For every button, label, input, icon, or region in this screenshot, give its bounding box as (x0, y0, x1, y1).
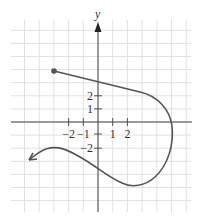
curve-path (29, 71, 172, 186)
x-tick-label: −2 (62, 127, 75, 141)
y-tick-label: −2 (80, 141, 93, 155)
function-graph: −2−11221−2 y (0, 0, 200, 220)
axes (11, 22, 192, 212)
x-tick-label: 2 (124, 127, 130, 141)
y-tick-label: 2 (87, 89, 93, 103)
y-axis-label: y (94, 7, 101, 21)
y-axis-arrow-icon (95, 22, 102, 32)
start-point-dot (51, 68, 57, 74)
y-tick-label: 1 (87, 102, 93, 116)
x-tick-label: −1 (77, 127, 90, 141)
grid-lines (11, 20, 191, 212)
x-tick-label: 1 (110, 127, 116, 141)
